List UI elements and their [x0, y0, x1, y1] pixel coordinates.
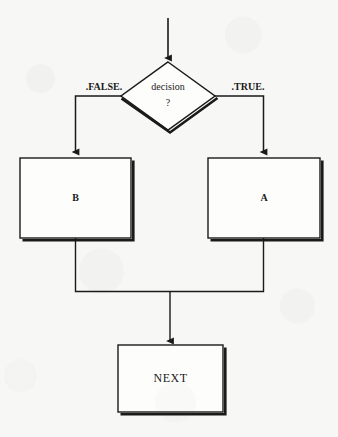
process-box-b-label: B	[20, 192, 131, 205]
edge-label-true: .TRUE.	[215, 81, 281, 94]
terminal-box-next-label: NEXT	[118, 371, 223, 386]
flowchart-canvas: decision ? .FALSE. .TRUE. B A NEXT	[0, 0, 338, 437]
edge-false-path	[76, 96, 122, 152]
process-box-a-label: A	[208, 192, 320, 205]
edge-merge-path	[76, 238, 264, 341]
edge-true-path	[215, 96, 264, 152]
edge-label-false: .FALSE.	[68, 81, 140, 94]
decision-label-line2: ?	[121, 97, 215, 110]
